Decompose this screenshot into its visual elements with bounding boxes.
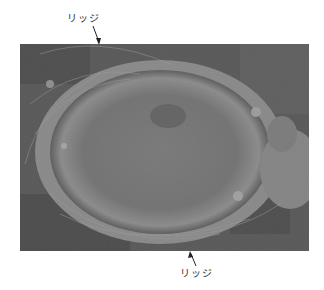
ridge-arrow-bottom xyxy=(0,0,324,290)
ridge-label-bottom: リッジ xyxy=(180,265,213,280)
